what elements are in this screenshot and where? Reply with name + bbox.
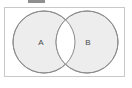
set-a-label: A (38, 38, 44, 47)
venn-canvas: A B (0, 0, 132, 88)
venn-diagram-figure: A B (0, 0, 132, 88)
set-b-label: B (85, 38, 90, 47)
